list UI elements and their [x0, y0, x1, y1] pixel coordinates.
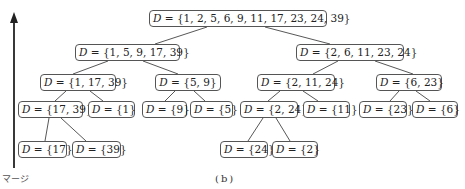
node-llr: D = {1} — [88, 101, 135, 118]
node-rr-set: {6, 23} — [404, 76, 444, 88]
node-rl-set: {2, 11, 24} — [285, 76, 345, 88]
node-rlr-set: {11} — [331, 103, 358, 115]
node-lll-set: {17, 39} — [46, 103, 93, 115]
merge-axis-label: マージ — [2, 172, 29, 185]
node-lrr: D = {5} — [190, 101, 233, 118]
node-root-set: {1, 2, 5, 6, 9, 11, 17, 23, 24, 39} — [177, 12, 351, 24]
node-rl: D = {2, 11, 24} — [257, 74, 335, 91]
node-lrl-set: {9} — [170, 103, 190, 115]
node-rllr: D = {2} — [272, 141, 318, 158]
node-llll-set: {17} — [46, 143, 73, 155]
node-lrl: D = {9} — [142, 101, 187, 118]
tree-edges — [0, 0, 465, 189]
node-lr-set: {5, 9} — [183, 76, 216, 88]
node-rrl: D = {23} — [359, 101, 407, 118]
node-lll: D = {17, 39} — [18, 101, 83, 118]
node-ll: D = {1, 17, 39} — [40, 74, 116, 91]
node-r: D = {2, 6, 11, 23, 24} — [296, 44, 404, 61]
merge-axis-arrow — [10, 12, 18, 168]
node-lllr-set: {39} — [100, 143, 127, 155]
node-root: D = {1, 2, 5, 6, 9, 11, 17, 23, 24, 39} — [149, 10, 327, 27]
node-rlll-set: {24} — [248, 143, 275, 155]
node-ll-set: {1, 17, 39} — [68, 76, 128, 88]
node-rll: D = {2, 24} — [240, 101, 298, 118]
node-rrl-set: {23} — [387, 103, 414, 115]
node-lr: D = {5, 9} — [155, 74, 221, 91]
node-r-set: {2, 6, 11, 23, 24} — [324, 46, 418, 58]
node-rrr-set: {6} — [440, 103, 460, 115]
node-lrr-set: {5} — [218, 103, 238, 115]
node-rrr: D = {6} — [412, 101, 458, 118]
node-llr-set: {1} — [116, 103, 136, 115]
node-rlr: D = {11} — [303, 101, 350, 118]
node-lllr: D = {39} — [72, 141, 121, 158]
node-l: D = {1, 5, 9, 17, 39} — [75, 44, 180, 61]
node-rll-set: {2, 24} — [268, 103, 308, 115]
node-l-set: {1, 5, 9, 17, 39} — [103, 46, 190, 58]
node-llll: D = {17} — [18, 141, 67, 158]
figure-caption: (b) — [215, 173, 235, 184]
node-rr: D = {6, 23} — [376, 74, 442, 91]
node-rlll: D = {24} — [220, 141, 268, 158]
node-rllr-set: {2} — [300, 143, 320, 155]
